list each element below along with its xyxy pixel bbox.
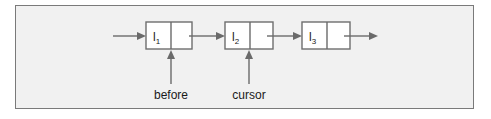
before-label: before xyxy=(154,88,188,102)
head-arrow xyxy=(113,32,146,40)
cursor-pointer: cursor xyxy=(232,50,265,102)
next-arrow-1 xyxy=(189,32,225,40)
list-node-1: l1 xyxy=(146,22,192,49)
cursor-label: cursor xyxy=(232,88,265,102)
list-node-3: l3 xyxy=(302,22,350,49)
list-node-2: l2 xyxy=(225,22,273,49)
before-pointer: before xyxy=(154,50,188,102)
linked-list-diagram: l1 l2 l3 before cursor xyxy=(0,0,491,119)
